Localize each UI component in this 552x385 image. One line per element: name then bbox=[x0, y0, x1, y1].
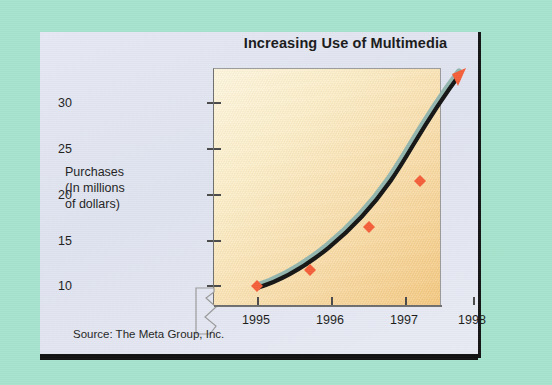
plot-area bbox=[213, 68, 441, 305]
y-axis-title-line-3: of dollars) bbox=[65, 196, 195, 212]
y-axis-title: Purchases (In millions of dollars) bbox=[65, 164, 195, 212]
data-point-marker-1997-25 bbox=[414, 175, 426, 187]
data-point-marker-1996-5 bbox=[363, 221, 375, 233]
y-tick-label-25: 25 bbox=[32, 142, 72, 156]
data-series-curve bbox=[214, 69, 442, 306]
x-tick-mark-1998 bbox=[473, 297, 475, 305]
x-tick-label-1996: 1996 bbox=[300, 313, 360, 327]
image-canvas: Increasing Use of Multimedia Purchases (… bbox=[0, 0, 552, 385]
page-title: Increasing Use of Multimedia bbox=[213, 32, 478, 54]
y-tick-label-20: 20 bbox=[32, 188, 72, 202]
y-tick-label-30: 30 bbox=[32, 96, 72, 110]
bottom-rule bbox=[40, 354, 481, 358]
y-tick-label-15: 15 bbox=[32, 234, 72, 248]
figure-panel: Increasing Use of Multimedia Purchases (… bbox=[40, 32, 478, 357]
y-axis-title-line-2: (In millions bbox=[65, 180, 195, 196]
source-caption: Source: The Meta Group, Inc. bbox=[73, 328, 224, 340]
y-axis-title-line-1: Purchases bbox=[65, 164, 195, 180]
curve-line bbox=[259, 74, 461, 288]
x-tick-label-1995: 1995 bbox=[226, 313, 286, 327]
y-tick-label-10: 10 bbox=[32, 279, 72, 293]
x-tick-label-1998: 1998 bbox=[442, 313, 502, 327]
curve-highlight bbox=[257, 72, 459, 286]
x-axis-line bbox=[214, 305, 442, 307]
x-tick-label-1997: 1997 bbox=[374, 313, 434, 327]
